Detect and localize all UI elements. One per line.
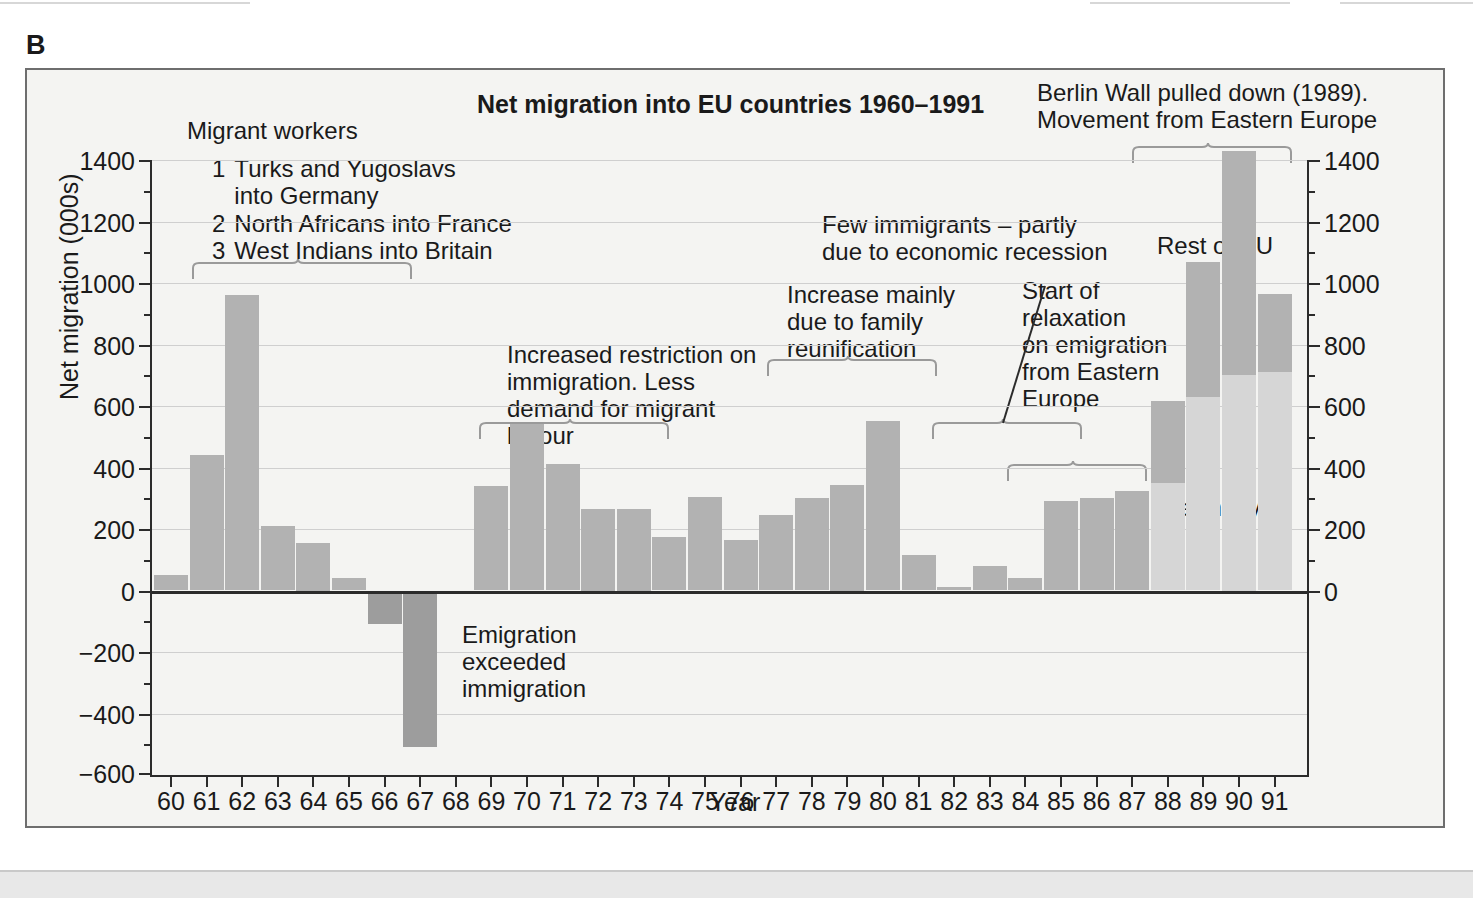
xlabel-64: 64	[299, 789, 327, 814]
ytick-left-400	[139, 468, 152, 470]
bar-1972	[581, 509, 615, 591]
ytick-left-1100	[144, 252, 152, 254]
gridline-1200	[152, 222, 1307, 223]
ylabel-right-800: 800	[1324, 334, 1366, 359]
ytick-left-minus500	[144, 744, 152, 746]
xtick-75	[704, 775, 706, 787]
ytick-left-minus400	[139, 714, 152, 716]
xtick-72	[597, 775, 599, 787]
xtick-71	[562, 775, 564, 787]
ylabel-right-0: 0	[1324, 580, 1338, 605]
xtick-62	[241, 775, 243, 787]
top-rule-left	[0, 2, 250, 4]
ylabel-left-1400: 1400	[79, 149, 135, 174]
ytick-right-200	[1307, 529, 1320, 531]
ytick-left-900	[144, 314, 152, 316]
gridline-400	[152, 468, 1307, 469]
gridline-1000	[152, 283, 1307, 284]
ytick-right-800	[1307, 345, 1320, 347]
bar-1978	[795, 498, 829, 590]
xtick-81	[918, 775, 920, 787]
annotation-migrant-workers-heading: Migrant workers	[187, 118, 358, 145]
ytick-right-600	[1307, 406, 1320, 408]
xtick-70	[526, 775, 528, 787]
bar-1979	[830, 485, 864, 591]
xtick-82	[953, 775, 955, 787]
xlabel-76: 76	[727, 789, 755, 814]
xtick-89	[1202, 775, 1204, 787]
bar-1973	[617, 509, 651, 591]
ytick-right-300	[1307, 498, 1315, 500]
chart-title: Net migration into EU countries 1960–199…	[477, 90, 984, 119]
ylabel-left-1200: 1200	[79, 211, 135, 236]
bar-1967	[403, 591, 437, 748]
panel-label: B	[26, 30, 46, 61]
ytick-left-200	[139, 529, 152, 531]
ytick-right-700	[1307, 375, 1315, 377]
ylabel-right-1400: 1400	[1324, 149, 1380, 174]
xlabel-74: 74	[655, 789, 683, 814]
bar-1987	[1115, 491, 1149, 591]
gridline-800	[152, 345, 1307, 346]
xtick-69	[490, 775, 492, 787]
top-rule-mid	[1090, 2, 1290, 4]
ylabel-left-800: 800	[93, 334, 135, 359]
ytick-right-1000	[1307, 283, 1320, 285]
xlabel-90: 90	[1225, 789, 1253, 814]
bar-1988-rest-of-eu	[1151, 401, 1185, 483]
gridline-1400	[152, 160, 1307, 161]
ytick-right-1100	[1307, 252, 1315, 254]
bar-1964	[296, 543, 330, 591]
xtick-79	[846, 775, 848, 787]
xlabel-73: 73	[620, 789, 648, 814]
ytick-right-1200	[1307, 222, 1320, 224]
bar-1983	[973, 566, 1007, 591]
xlabel-75: 75	[691, 789, 719, 814]
ylabel-left-400: 400	[93, 457, 135, 482]
ytick-right-100	[1307, 560, 1315, 562]
ytick-right-900	[1307, 314, 1315, 316]
xtick-85	[1060, 775, 1062, 787]
xlabel-81: 81	[905, 789, 933, 814]
bar-1990-germany	[1222, 375, 1256, 590]
xlabel-66: 66	[371, 789, 399, 814]
bar-1969	[474, 486, 508, 591]
gridline-minus400	[152, 714, 1307, 715]
bar-1985	[1044, 501, 1078, 590]
bar-1980	[866, 421, 900, 590]
bar-1988-germany	[1151, 483, 1185, 591]
xtick-88	[1167, 775, 1169, 787]
xlabel-80: 80	[869, 789, 897, 814]
ylabel-right-1200: 1200	[1324, 211, 1380, 236]
chart-figure: Net migration into EU countries 1960–199…	[25, 68, 1445, 828]
bar-1976	[724, 540, 758, 591]
xtick-77	[775, 775, 777, 787]
ytick-left-1400	[139, 160, 152, 162]
xlabel-88: 88	[1154, 789, 1182, 814]
xlabel-91: 91	[1261, 789, 1289, 814]
xtick-91	[1274, 775, 1276, 787]
xlabel-68: 68	[442, 789, 470, 814]
xtick-83	[989, 775, 991, 787]
ytick-left-1000	[139, 283, 152, 285]
bar-1965	[332, 578, 366, 590]
bar-1991-germany	[1258, 372, 1292, 590]
ytick-left-minus300	[144, 683, 152, 685]
xlabel-78: 78	[798, 789, 826, 814]
bar-1960	[154, 575, 188, 590]
gridline-minus200	[152, 652, 1307, 653]
bar-1991-rest-of-eu	[1258, 294, 1292, 372]
top-rule-right	[1340, 2, 1473, 4]
xtick-76	[740, 775, 742, 787]
ylabel-left-200: 200	[93, 518, 135, 543]
bar-1984	[1008, 578, 1042, 590]
bar-1974	[652, 537, 686, 591]
xlabel-85: 85	[1047, 789, 1075, 814]
xtick-87	[1131, 775, 1133, 787]
xlabel-77: 77	[762, 789, 790, 814]
xtick-65	[348, 775, 350, 787]
xlabel-61: 61	[193, 789, 221, 814]
xtick-84	[1024, 775, 1026, 787]
xtick-60	[170, 775, 172, 787]
axis-zero-line	[152, 591, 1307, 594]
